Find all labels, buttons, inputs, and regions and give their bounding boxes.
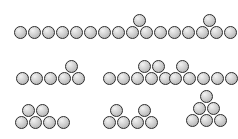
sphere-icon xyxy=(84,26,97,39)
sphere-icon xyxy=(133,14,146,27)
sphere-icon xyxy=(16,72,29,85)
sphere-icon xyxy=(182,26,195,39)
sphere-icon xyxy=(145,72,158,85)
sphere-icon xyxy=(57,116,70,129)
sphere-icon xyxy=(138,104,151,117)
sphere-icon xyxy=(214,114,227,127)
sphere-icon xyxy=(14,26,27,39)
sphere-icon xyxy=(200,114,213,127)
sphere-icon xyxy=(28,26,41,39)
sphere-icon xyxy=(225,72,238,85)
sphere-icon xyxy=(197,72,210,85)
sphere-icon xyxy=(207,102,220,115)
sphere-icon xyxy=(154,26,167,39)
sphere-icon xyxy=(15,116,28,129)
sphere-icon xyxy=(112,26,125,39)
sphere-icon xyxy=(110,104,123,117)
sphere-icon xyxy=(131,116,144,129)
sphere-icon xyxy=(117,116,130,129)
sphere-icon xyxy=(152,60,165,73)
sphere-icon xyxy=(117,72,130,85)
sphere-icon xyxy=(145,116,158,129)
sphere-icon xyxy=(200,90,213,103)
sphere-icon xyxy=(58,72,71,85)
sphere-icon xyxy=(203,14,216,27)
sphere-icon xyxy=(72,72,85,85)
sphere-icon xyxy=(196,26,209,39)
sphere-icon xyxy=(169,72,182,85)
sphere-icon xyxy=(224,26,237,39)
sphere-icon xyxy=(30,72,43,85)
sphere-icon xyxy=(44,72,57,85)
sphere-icon xyxy=(103,72,116,85)
sphere-arrangement-canvas xyxy=(0,0,238,139)
sphere-icon xyxy=(168,26,181,39)
sphere-icon xyxy=(36,104,49,117)
sphere-icon xyxy=(176,60,189,73)
sphere-icon xyxy=(193,102,206,115)
sphere-icon xyxy=(103,116,116,129)
sphere-icon xyxy=(138,60,151,73)
sphere-icon xyxy=(211,72,224,85)
sphere-icon xyxy=(183,72,196,85)
sphere-icon xyxy=(43,116,56,129)
sphere-icon xyxy=(22,104,35,117)
sphere-icon xyxy=(126,26,139,39)
sphere-icon xyxy=(98,26,111,39)
sphere-icon xyxy=(131,72,144,85)
sphere-icon xyxy=(29,116,42,129)
sphere-icon xyxy=(210,26,223,39)
sphere-icon xyxy=(186,114,199,127)
sphere-icon xyxy=(56,26,69,39)
sphere-icon xyxy=(70,26,83,39)
sphere-icon xyxy=(65,60,78,73)
sphere-icon xyxy=(42,26,55,39)
sphere-icon xyxy=(140,26,153,39)
